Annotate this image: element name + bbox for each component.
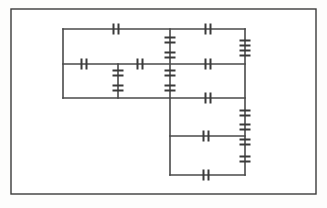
page-root bbox=[0, 0, 327, 208]
contact-network-diagram bbox=[0, 0, 327, 208]
diagram-border bbox=[11, 9, 316, 194]
diagram-border bbox=[11, 9, 316, 194]
